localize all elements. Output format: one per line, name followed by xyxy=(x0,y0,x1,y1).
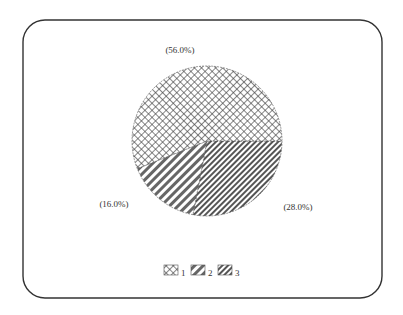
legend-label-1: 1 xyxy=(181,268,186,278)
legend-swatch-3 xyxy=(218,265,232,275)
pie-slice-3 xyxy=(193,141,282,216)
legend-swatch-1 xyxy=(164,265,178,275)
legend: 123 xyxy=(164,265,240,278)
legend-label-2: 2 xyxy=(208,268,213,278)
slice-percent-label: (28.0%) xyxy=(283,202,312,212)
pie-chart: (28.0%)(16.0%)(56.0%) 123 xyxy=(0,0,403,315)
slice-percent-label: (56.0%) xyxy=(165,45,194,55)
slice-percent-label: (16.0%) xyxy=(99,199,128,209)
legend-swatch-2 xyxy=(191,265,205,275)
pie-slices xyxy=(132,66,282,216)
legend-label-3: 3 xyxy=(235,268,240,278)
